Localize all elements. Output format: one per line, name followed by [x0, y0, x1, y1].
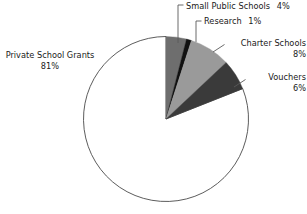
pie-label-vouchers-percent: 6% [206, 83, 306, 94]
pie-chart-svg [0, 0, 307, 214]
pie-label-research: Research 1% [204, 16, 261, 27]
pie-label-vouchers: Vouchers 6% [206, 72, 306, 93]
pie-label-small-public-schools-name: Small Public Schools [186, 1, 270, 11]
pie-label-private-school-grants: Private School Grants 81% [2, 50, 98, 71]
pie-label-small-public-schools-percent: 4% [277, 1, 290, 11]
pie-label-charter-schools-percent: 8% [178, 49, 306, 60]
pie-label-charter-schools: Charter Schools 8% [178, 38, 306, 59]
pie-label-research-percent: 1% [248, 16, 261, 26]
pie-chart-screenshot: Small Public Schools 4% Research 1% Char… [0, 0, 307, 214]
pie-label-research-name: Research [204, 16, 242, 26]
pie-label-charter-schools-name: Charter Schools [178, 38, 306, 49]
pie-chart-figure: Small Public Schools 4% Research 1% Char… [0, 0, 307, 214]
pie-label-vouchers-name: Vouchers [206, 72, 306, 83]
pie-label-small-public-schools: Small Public Schools 4% [186, 1, 290, 12]
pie-label-private-school-grants-name: Private School Grants [2, 50, 98, 61]
pie-label-private-school-grants-percent: 81% [2, 61, 98, 72]
